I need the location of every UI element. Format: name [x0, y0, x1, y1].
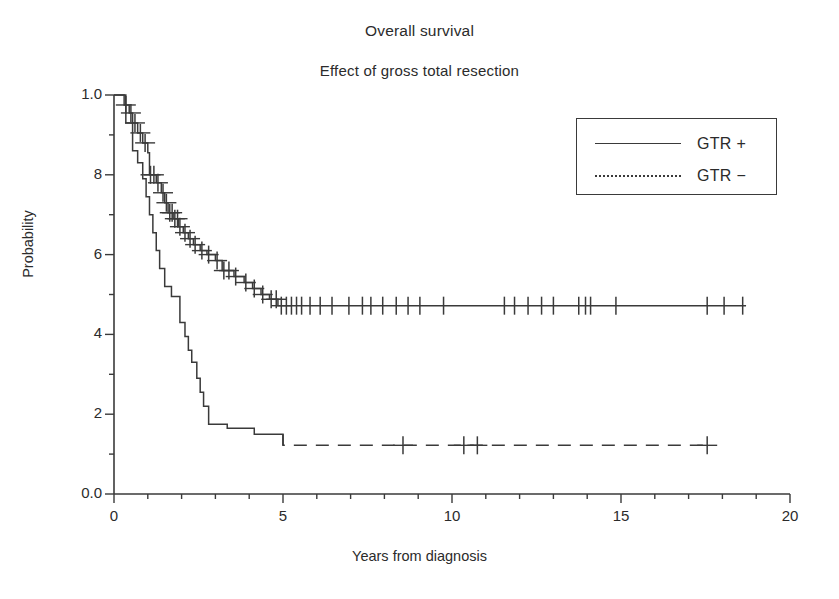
x-axis-title: Years from diagnosis — [0, 548, 839, 564]
legend-item-gtr-plus: GTR + — [577, 127, 776, 161]
legend: GTR + GTR − — [576, 118, 777, 195]
y-tick-label: 2 — [40, 404, 102, 421]
x-tick-label: 5 — [253, 507, 313, 524]
y-tick-label: 4 — [40, 324, 102, 341]
y-tick-label: 6 — [40, 245, 102, 262]
y-axis-title: Probability — [20, 154, 36, 334]
series-line-gtr-minus — [114, 95, 283, 445]
y-tick-label: 8 — [40, 165, 102, 182]
survival-chart-figure: Overall survival Effect of gross total r… — [0, 0, 839, 599]
legend-swatch-dotted-icon — [595, 170, 681, 182]
legend-item-gtr-minus: GTR − — [577, 159, 776, 193]
legend-swatch-solid-icon — [595, 138, 681, 150]
x-tick-label: 10 — [422, 507, 482, 524]
y-tick-label: 1.0 — [40, 85, 102, 102]
legend-label-gtr-minus: GTR − — [697, 167, 746, 185]
series-line-dashed-gtr-minus — [283, 434, 709, 445]
x-tick-label: 0 — [84, 507, 144, 524]
x-tick-label: 15 — [591, 507, 651, 524]
y-tick-label: 0.0 — [40, 484, 102, 501]
legend-label-gtr-plus: GTR + — [697, 135, 746, 153]
x-tick-label: 20 — [760, 507, 820, 524]
